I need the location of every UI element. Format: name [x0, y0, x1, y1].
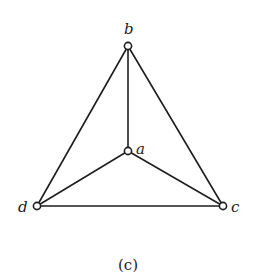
nodes-group [33, 42, 226, 209]
edge-b-d [37, 46, 128, 206]
node-label-a: a [136, 140, 145, 158]
node-d-icon [33, 202, 40, 209]
node-b-icon [124, 42, 131, 49]
node-c-icon [219, 202, 226, 209]
edges-group [37, 46, 223, 206]
node-label-b: b [124, 20, 134, 38]
node-label-c: c [231, 198, 240, 216]
edge-a-d [37, 151, 128, 206]
graph-diagram: b a d c (c) [0, 0, 260, 276]
edge-a-c [128, 151, 223, 206]
node-a-icon [124, 147, 131, 154]
node-label-d: d [18, 198, 28, 216]
edge-b-c [128, 46, 223, 206]
figure-caption: (c) [118, 256, 138, 274]
